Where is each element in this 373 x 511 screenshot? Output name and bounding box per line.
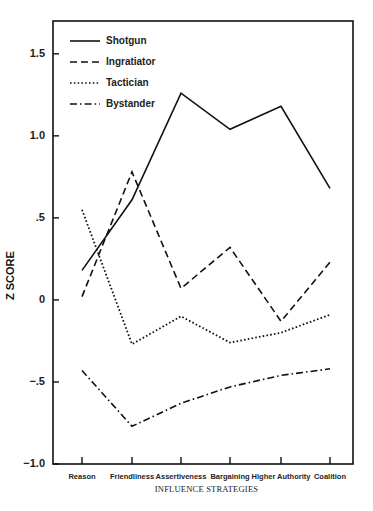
x-tick-label: Higher Authority <box>252 472 311 481</box>
series-lines <box>82 93 330 426</box>
x-tick-label: Bargaining <box>210 472 249 481</box>
y-tick-label: .5 <box>11 211 45 223</box>
x-tick-label: Friendliness <box>110 472 154 481</box>
x-tick-label: Reason <box>68 472 95 481</box>
y-tick-label: 1.0 <box>11 129 45 141</box>
y-tick-label: 1.5 <box>11 47 45 59</box>
legend-label: Shotgun <box>106 35 147 46</box>
x-axis-label: INFLUENCE STRATEGIES <box>0 484 373 494</box>
x-tick-label: Coalition <box>314 472 346 481</box>
x-tick-label: Assertiveness <box>156 472 207 481</box>
legend-label: Ingratiator <box>106 56 155 67</box>
legend-line-swatch <box>70 99 100 109</box>
legend-label: Bystander <box>106 98 155 109</box>
legend: ShotgunIngratiatorTacticianBystander <box>70 30 155 114</box>
legend-line-swatch <box>70 36 100 46</box>
series-line-ingratiator <box>82 172 330 321</box>
y-tick-label: 0 <box>11 293 45 305</box>
legend-label: Tactician <box>106 77 149 88</box>
line-chart <box>0 0 373 511</box>
legend-item-tactician: Tactician <box>70 72 155 93</box>
y-tick-label: −1.0 <box>11 457 45 469</box>
x-axis-ticks <box>82 457 330 464</box>
y-tick-label: −.5 <box>11 375 45 387</box>
series-line-shotgun <box>82 93 330 270</box>
legend-line-swatch <box>70 57 100 67</box>
series-line-tactician <box>82 210 330 345</box>
legend-item-shotgun: Shotgun <box>70 30 155 51</box>
legend-line-swatch <box>70 78 100 88</box>
legend-item-ingratiator: Ingratiator <box>70 51 155 72</box>
y-axis-label: Z SCORE <box>4 251 16 300</box>
y-axis-ticks <box>53 54 59 464</box>
series-line-bystander <box>82 369 330 427</box>
legend-item-bystander: Bystander <box>70 93 155 114</box>
